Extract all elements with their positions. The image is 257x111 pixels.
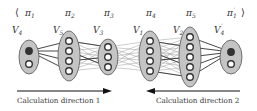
- node: [26, 61, 33, 68]
- group-label: V2: [173, 25, 184, 36]
- sequence-label: π2: [64, 8, 75, 19]
- vertex-group-v5: V5: [53, 25, 80, 81]
- direction-label: Calculation direction 2: [156, 96, 239, 105]
- vertex-group-v4: V4: [12, 25, 39, 74]
- node: [147, 38, 154, 45]
- node: [66, 68, 73, 75]
- node: [228, 61, 235, 68]
- vertex-group-v4-prime: V4′: [214, 22, 242, 74]
- close-bracket: ⟩: [241, 7, 245, 18]
- node: [187, 74, 194, 81]
- group-label: V4′: [214, 22, 225, 36]
- node: [147, 68, 154, 75]
- node: [105, 54, 112, 61]
- node: [66, 48, 73, 55]
- sequence-label: π5: [185, 8, 196, 19]
- node: [187, 54, 194, 61]
- node: [147, 48, 154, 55]
- vertex-group-v2: V2: [173, 25, 201, 87]
- search-space-diagram: V4V5V3V1V2V4′ ⟨ ⟩ π1π2π3π4π5π1′ Calculat…: [0, 0, 257, 111]
- sequence-label: π3: [103, 8, 114, 19]
- group-label: V1: [133, 25, 143, 36]
- start-node: [228, 49, 234, 55]
- node: [66, 38, 73, 45]
- node: [66, 58, 73, 65]
- direction-arrows: Calculation direction 1Calculation direc…: [17, 88, 240, 105]
- group-label: V4: [12, 25, 23, 36]
- group-ellipse: [220, 40, 242, 74]
- node: [147, 58, 154, 65]
- node: [187, 34, 194, 41]
- sequence-label: π1′: [226, 6, 237, 19]
- arrowhead-icon: [103, 88, 112, 94]
- open-bracket: ⟨: [15, 7, 19, 18]
- group-label: V3: [93, 25, 104, 36]
- node: [187, 64, 194, 71]
- node: [187, 44, 194, 51]
- arrowhead-icon: [146, 88, 155, 94]
- sequence-labels: ⟨ ⟩ π1π2π3π4π5π1′: [15, 6, 245, 19]
- group-ellipse: [19, 40, 39, 74]
- sequence-label: π1: [24, 8, 35, 19]
- node: [105, 44, 112, 51]
- sequence-label: π4: [145, 8, 156, 19]
- node: [105, 64, 112, 71]
- vertex-group-v3: V3: [93, 25, 118, 75]
- group-label: V5: [53, 25, 64, 36]
- start-node: [26, 48, 32, 54]
- direction-label: Calculation direction 1: [17, 96, 100, 105]
